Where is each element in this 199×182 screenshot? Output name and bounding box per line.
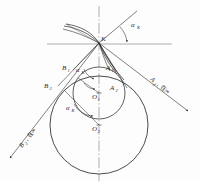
label-alpha-k-top-sub: K xyxy=(136,25,141,30)
label-centre-o2-sub: 2 xyxy=(98,129,101,134)
label-point-a2-sub: 2 xyxy=(116,88,119,93)
construction-lines xyxy=(47,6,172,181)
label-alpha-k-low: α xyxy=(66,104,70,111)
label-b2-at-infinity: B 2 , 在∞ xyxy=(17,126,38,150)
label-centre-o1: O xyxy=(92,93,97,101)
label-point-a1: A xyxy=(105,64,111,72)
label-point-a1-sub: 1 xyxy=(112,68,114,73)
involute-geometry-figure: K α K α K α K B 1 A 1 B 2 A 2 O 1 xyxy=(0,0,199,182)
involute-curves xyxy=(63,24,124,80)
label-centre-o1-sub: 1 xyxy=(98,97,100,102)
radius-o1-b1 xyxy=(78,78,99,93)
label-point-b2: B xyxy=(44,82,49,90)
label-alpha-k-low-sub: K xyxy=(71,108,76,113)
label-alpha-k-mid: α xyxy=(76,66,80,73)
label-a2-at-infinity: A 2 , 在∞ xyxy=(147,75,172,97)
label-b2-at-infinity-tail: , 在∞ xyxy=(23,126,38,142)
label-centre-o2: O xyxy=(92,125,97,133)
label-point-k: K xyxy=(100,35,106,43)
label-point-a2: A xyxy=(109,84,115,92)
chord-k-a2 xyxy=(99,43,127,88)
figure-canvas: K α K α K α K B 1 A 1 B 2 A 2 O 1 xyxy=(0,0,199,182)
radial-lines xyxy=(64,78,99,125)
ray-to-b2-infinity xyxy=(10,43,99,158)
label-point-b1-sub: 1 xyxy=(68,68,70,73)
label-alpha-k-top: α xyxy=(131,21,135,29)
angle-arc-top xyxy=(120,27,127,42)
label-point-b2-sub: 2 xyxy=(50,86,53,91)
label-point-b1: B xyxy=(62,64,67,72)
ray-to-a2-infinity xyxy=(99,43,188,111)
